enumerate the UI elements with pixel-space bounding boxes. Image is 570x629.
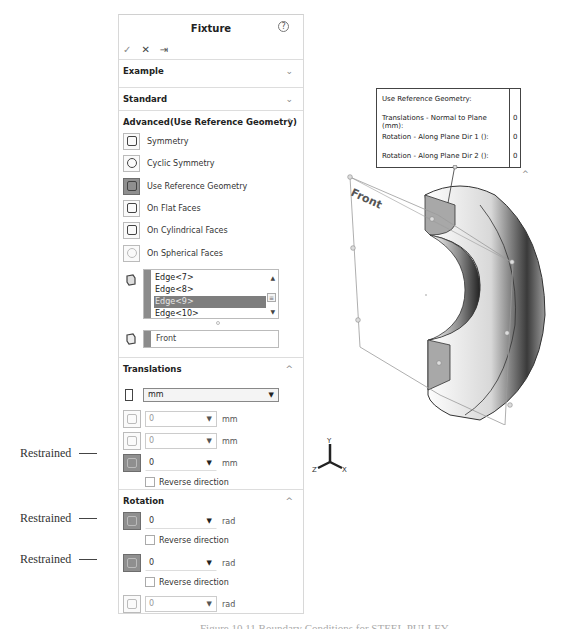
callout-row-label: Rotation - Along Plane Dir 1 (): (382, 133, 510, 141)
unit-label: rad (222, 517, 235, 526)
field-value: 0 (149, 558, 154, 567)
fixture-property-manager: Fixture ? ✓ ✕ ⇥ Example ⌄ Standard ⌄ Adv… (118, 14, 304, 614)
section-example[interactable]: Example ⌄ (119, 59, 303, 81)
list-item[interactable]: Edge<10> (154, 308, 266, 320)
section-advanced-label: Advanced(Use Reference Geometry) (123, 117, 297, 127)
reference-plane-field[interactable]: Front (143, 330, 279, 348)
chevron-up-icon[interactable]: ^ (285, 490, 293, 512)
axis-z-label: Z (312, 466, 317, 474)
annotation-label: Restrained (20, 552, 71, 567)
option-on-flat-faces[interactable]: On Flat Faces (123, 199, 201, 217)
reverse-direction-checkbox[interactable] (145, 577, 155, 587)
list-item-selected[interactable]: Edge<9> (154, 296, 266, 308)
help-icon[interactable]: ? (278, 21, 289, 32)
leader-line (79, 453, 97, 454)
list-item[interactable]: Edge<8> (154, 284, 266, 296)
rotation-dir2-input[interactable]: 0 ▼ (145, 555, 217, 571)
flat-faces-icon (123, 200, 140, 217)
dropdown-arrow-icon: ▼ (207, 456, 212, 470)
list-item[interactable]: Edge<7> (154, 272, 266, 284)
scroll-down-arrow-icon[interactable]: ▼ (270, 308, 275, 315)
option-label: Cyclic Symmetry (147, 159, 215, 168)
reverse-direction-checkbox[interactable] (145, 477, 155, 487)
callout-row-value: 0 (513, 114, 517, 122)
chevron-down-icon[interactable]: ⌄ (285, 88, 293, 110)
option-use-reference-geometry[interactable]: Use Reference Geometry (123, 177, 247, 195)
leader-line (79, 559, 97, 560)
leader-line (79, 518, 97, 519)
rotation-normal-row: 0 ▼ rad (123, 594, 235, 614)
callout-row-value: 0 (513, 133, 517, 141)
dropdown-arrow-icon: ▼ (207, 597, 212, 611)
checkbox-label: Reverse direction (159, 536, 229, 545)
unit-label: rad (222, 600, 235, 609)
section-rotation-label: Rotation (123, 496, 164, 506)
translation-dir1-toggle-icon[interactable] (123, 410, 141, 428)
option-cyclic-symmetry[interactable]: Cyclic Symmetry (123, 154, 215, 172)
action-bar: ✓ ✕ ⇥ (123, 44, 168, 55)
pin-button[interactable]: ⇥ (160, 44, 168, 55)
section-advanced[interactable]: Advanced(Use Reference Geometry) ^ (119, 110, 303, 132)
pulley-model-viewport[interactable]: Front (330, 165, 555, 425)
edge-selection-icon (124, 273, 138, 287)
section-standard[interactable]: Standard ⌄ (119, 87, 303, 109)
option-label: On Cylindrical Faces (147, 226, 228, 235)
plane-selection-icon (124, 332, 138, 346)
rotation-normal-input[interactable]: 0 ▼ (145, 596, 217, 612)
translation-reverse-direction[interactable]: Reverse direction (145, 475, 229, 489)
option-on-spherical-faces[interactable]: On Spherical Faces (123, 244, 223, 262)
coordinate-triad: Y Z X (310, 436, 350, 476)
chevron-up-icon[interactable]: ^ (285, 111, 293, 133)
annotation-label: Restrained (20, 511, 71, 526)
chevron-down-icon[interactable]: ⌄ (285, 60, 293, 82)
list-resize-handle[interactable] (216, 321, 220, 325)
rotation-dir1-reverse-direction[interactable]: Reverse direction (145, 533, 229, 547)
rotation-dir1-input[interactable]: 0 ▼ (145, 513, 217, 529)
translation-dir2-input[interactable]: 0 ▼ (145, 433, 217, 449)
cancel-button[interactable]: ✕ (141, 44, 149, 55)
annotation-label: Restrained (20, 446, 71, 461)
annotation-restrained: Restrained (20, 552, 97, 567)
translation-normal-toggle-icon[interactable] (123, 454, 141, 472)
section-translations[interactable]: Translations ^ (119, 357, 303, 379)
selection-color-bar (144, 331, 151, 347)
checkbox-label: Reverse direction (159, 578, 229, 587)
fixture-callout[interactable]: Use Reference Geometry: Translations - N… (376, 88, 521, 168)
chevron-up-icon[interactable]: ^ (285, 358, 293, 380)
spherical-faces-icon (123, 245, 140, 262)
option-label: On Flat Faces (147, 204, 201, 213)
scrollbar-thumb[interactable]: ≡ (267, 293, 276, 302)
option-on-cylindrical-faces[interactable]: On Cylindrical Faces (123, 221, 228, 239)
dropdown-arrow-icon: ▼ (207, 412, 212, 426)
axis-y-label: Y (326, 437, 332, 445)
scroll-up-arrow-icon[interactable]: ▲ (270, 274, 275, 281)
rotation-normal-toggle-icon[interactable] (123, 595, 141, 613)
callout-row-label: Translations - Normal to Plane (mm): (382, 114, 510, 130)
rotation-dir1-toggle-icon[interactable] (123, 512, 141, 530)
unit-label: rad (222, 559, 235, 568)
field-value: 0 (149, 599, 154, 608)
rotation-dir2-reverse-direction[interactable]: Reverse direction (145, 575, 229, 589)
section-example-label: Example (123, 66, 164, 76)
rotation-dir1-row: 0 ▼ rad (123, 511, 235, 531)
reverse-direction-checkbox[interactable] (145, 535, 155, 545)
translation-dir1-input[interactable]: 0 ▼ (145, 411, 217, 427)
field-value: 0 (149, 458, 154, 467)
dropdown-arrow-icon: ▼ (269, 389, 274, 401)
reference-plane-value: Front (156, 334, 176, 343)
translation-dir2-toggle-icon[interactable] (123, 432, 141, 450)
reference-geometry-icon (123, 178, 140, 195)
field-value: 0 (149, 414, 154, 423)
unit-label: mm (222, 459, 238, 468)
translation-normal-row: 0 ▼ mm (123, 453, 238, 473)
ok-button[interactable]: ✓ (123, 44, 131, 55)
cyclic-symmetry-icon (123, 155, 140, 172)
entity-selection-list[interactable]: Edge<7> Edge<8> Edge<9> Edge<10> ▲ ≡ ▼ (143, 269, 279, 319)
section-translations-label: Translations (123, 364, 181, 374)
translation-unit-select[interactable]: mm ▼ (143, 388, 279, 402)
rotation-dir2-toggle-icon[interactable] (123, 554, 141, 572)
section-rotation[interactable]: Rotation ^ (119, 489, 303, 511)
axis-x-label: X (342, 466, 347, 474)
option-symmetry[interactable]: Symmetry (123, 132, 188, 150)
translation-normal-input[interactable]: 0 ▼ (145, 455, 217, 471)
